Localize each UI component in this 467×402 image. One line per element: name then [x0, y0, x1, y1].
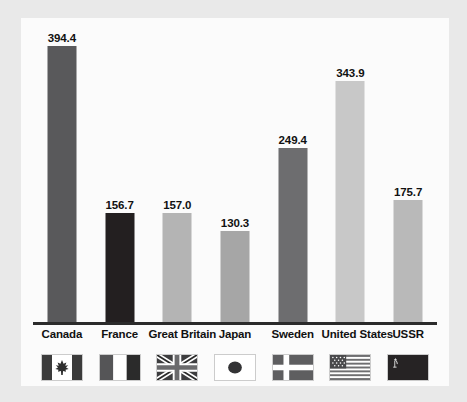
- flag-cell: [91, 352, 149, 382]
- flag-great-britain-icon: [156, 354, 198, 381]
- flag-canada-icon: [41, 354, 83, 381]
- bar-group: 157.0: [148, 28, 206, 323]
- bar-group: 156.7: [91, 28, 149, 323]
- bar[interactable]: [336, 81, 365, 323]
- category-label: France: [91, 328, 149, 340]
- plot-area: 394.4156.7157.0130.3249.4343.9175.7: [33, 28, 437, 323]
- category-label: Canada: [33, 328, 91, 340]
- bar[interactable]: [163, 213, 192, 323]
- flag-united-states-icon: [329, 354, 371, 381]
- category-label: Japan: [206, 328, 264, 340]
- chart-frame: Energy consumption in Btu 394.4156.7157.…: [0, 0, 467, 402]
- bar-value-label: 249.4: [279, 134, 307, 146]
- category-label: Great Britain: [148, 328, 206, 340]
- bar-group: 175.7: [379, 28, 437, 323]
- bar-value-label: 157.0: [163, 199, 191, 211]
- flag-japan-icon: [214, 354, 256, 381]
- flag-sweden-icon: [272, 354, 314, 381]
- flag-cell: [148, 352, 206, 382]
- bar-group: 394.4: [33, 28, 91, 323]
- bar-group: 249.4: [264, 28, 322, 323]
- bar[interactable]: [394, 200, 423, 323]
- bar[interactable]: [278, 148, 307, 323]
- bar-value-label: 156.7: [105, 199, 133, 211]
- flag-cell: [322, 352, 380, 382]
- bar-value-label: 394.4: [48, 32, 76, 44]
- bar-value-label: 130.3: [221, 217, 249, 229]
- category-label: USSR: [379, 328, 437, 340]
- flag-ussr-icon: [387, 354, 429, 381]
- flag-france-icon: [99, 354, 141, 381]
- category-label: United States: [322, 328, 380, 340]
- category-label: Sweden: [264, 328, 322, 340]
- bar-value-label: 175.7: [394, 186, 422, 198]
- flag-icon-row: [33, 352, 437, 382]
- chart-panel: Energy consumption in Btu 394.4156.7157.…: [21, 18, 449, 386]
- flag-cell: [206, 352, 264, 382]
- bar[interactable]: [220, 231, 249, 323]
- category-label-row: CanadaFranceGreat BritainJapanSwedenUnit…: [33, 328, 437, 350]
- bar[interactable]: [47, 46, 76, 323]
- flag-cell: [33, 352, 91, 382]
- x-axis-line: [33, 322, 437, 325]
- flag-cell: [379, 352, 437, 382]
- flag-cell: [264, 352, 322, 382]
- bar-group: 130.3: [206, 28, 264, 323]
- bar-group: 343.9: [322, 28, 380, 323]
- bar[interactable]: [105, 213, 134, 323]
- bar-value-label: 343.9: [336, 67, 364, 79]
